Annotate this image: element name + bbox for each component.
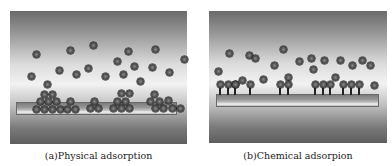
chemical-bond-icon [227, 87, 228, 95]
chemical-bond-icon [342, 87, 343, 95]
adsorbed-molecule-icon [165, 97, 172, 104]
adsorbed-molecule-icon [67, 98, 74, 105]
adsorbed-molecule-icon [87, 105, 94, 112]
caption-physical-adsorption: (a)Physical adsorption [10, 150, 187, 161]
free-molecule-icon [67, 47, 74, 54]
adsorbed-molecule-icon [160, 105, 167, 112]
chemical-bond-icon [350, 87, 351, 95]
free-molecule-icon [226, 50, 233, 57]
caption-chemical-adsorption: (b)Chemical adsorpion [209, 150, 387, 161]
free-molecule-icon [285, 74, 292, 81]
adsorbed-molecule-icon [147, 98, 154, 105]
free-molecule-icon [308, 55, 315, 62]
adsorbed-molecule-icon [177, 105, 184, 112]
chemisorbed-molecule-icon [217, 81, 224, 88]
adsorbed-molecule-icon [122, 98, 129, 105]
adsorbed-molecule-icon [91, 98, 98, 105]
free-molecule-icon [33, 51, 40, 58]
adsorbed-molecule-icon [37, 98, 44, 105]
free-molecule-icon [296, 58, 303, 65]
adsorbed-molecule-icon [49, 106, 56, 113]
chemical-bond-icon [314, 87, 315, 95]
adsorbed-molecule-icon [110, 105, 117, 112]
adsorbed-molecule-icon [126, 105, 133, 112]
adsorbed-molecule-icon [53, 98, 60, 105]
free-molecule-icon [280, 46, 287, 53]
free-molecule-icon [367, 62, 374, 69]
chemical-bond-icon [234, 87, 235, 95]
panel-a [10, 11, 187, 144]
free-molecule-icon [102, 73, 109, 80]
adsorbed-molecule-icon [64, 106, 71, 113]
adsorbed-molecule-icon [126, 90, 133, 97]
adsorbed-molecule-icon [118, 105, 125, 112]
free-molecule-icon [337, 57, 344, 64]
free-molecule-icon [149, 64, 156, 71]
adsorbed-molecule-icon [41, 91, 48, 98]
adsorbed-molecule-icon [45, 98, 52, 105]
free-molecule-icon [85, 65, 92, 72]
free-molecule-icon [90, 42, 97, 49]
free-molecule-icon [114, 58, 121, 65]
chemisorbed-molecule-icon [312, 81, 319, 88]
adsorbed-molecule-icon [49, 91, 56, 98]
free-molecule-icon [349, 62, 356, 69]
free-molecule-icon [125, 48, 132, 55]
adsorbed-molecule-icon [44, 81, 51, 88]
free-molecule-icon [166, 69, 173, 76]
chemical-bond-icon [249, 87, 250, 95]
chemical-bond-icon [219, 87, 220, 95]
adsorbed-molecule-icon [41, 106, 48, 113]
adsorbed-molecule-icon [151, 91, 158, 98]
chemisorbed-molecule-icon [340, 81, 347, 88]
adsorbed-molecule-icon [33, 106, 40, 113]
chemical-bond-icon [287, 87, 288, 95]
chemical-bond-icon [329, 87, 330, 95]
free-molecule-icon [131, 63, 138, 70]
free-molecule-icon [239, 77, 246, 84]
adsorbed-molecule-icon [95, 105, 102, 112]
free-molecule-icon [120, 71, 127, 78]
free-molecule-icon [321, 57, 328, 64]
free-molecule-icon [56, 67, 63, 74]
free-molecule-icon [73, 71, 80, 78]
adsorbed-molecule-icon [114, 98, 121, 105]
chemisorbed-molecule-icon [348, 81, 355, 88]
chemisorbed-molecule-icon [320, 81, 327, 88]
chemisorbed-molecule-icon [247, 81, 254, 88]
chemisorbed-molecule-icon [225, 81, 232, 88]
free-molecule-icon [137, 78, 144, 85]
adsorbent-surface-b [216, 94, 379, 107]
free-molecule-icon [359, 57, 366, 64]
free-molecule-icon [310, 66, 317, 73]
free-molecule-icon [271, 62, 278, 69]
free-molecule-icon [260, 76, 267, 83]
free-molecule-icon [332, 74, 339, 81]
chemisorbed-molecule-icon [285, 81, 292, 88]
chemical-bond-icon [322, 87, 323, 95]
adsorbed-molecule-icon [152, 105, 159, 112]
free-molecule-icon [152, 46, 159, 53]
chemisorbed-molecule-icon [277, 81, 284, 88]
free-molecule-icon [28, 73, 35, 80]
free-molecule-icon [371, 82, 378, 89]
chemical-bond-icon [358, 87, 359, 95]
adsorbed-molecule-icon [57, 106, 64, 113]
chemisorbed-molecule-icon [356, 81, 363, 88]
free-molecule-icon [252, 55, 259, 62]
adsorbed-molecule-icon [72, 106, 79, 113]
adsorbed-molecule-icon [118, 90, 125, 97]
free-molecule-icon [181, 56, 188, 63]
adsorbed-molecule-icon [169, 105, 176, 112]
free-molecule-icon [215, 68, 222, 75]
adsorbed-molecule-icon [156, 98, 163, 105]
chemisorbed-molecule-icon [232, 81, 239, 88]
chemical-bond-icon [279, 87, 280, 95]
panel-b [209, 11, 387, 143]
chemisorbed-molecule-icon [327, 81, 334, 88]
